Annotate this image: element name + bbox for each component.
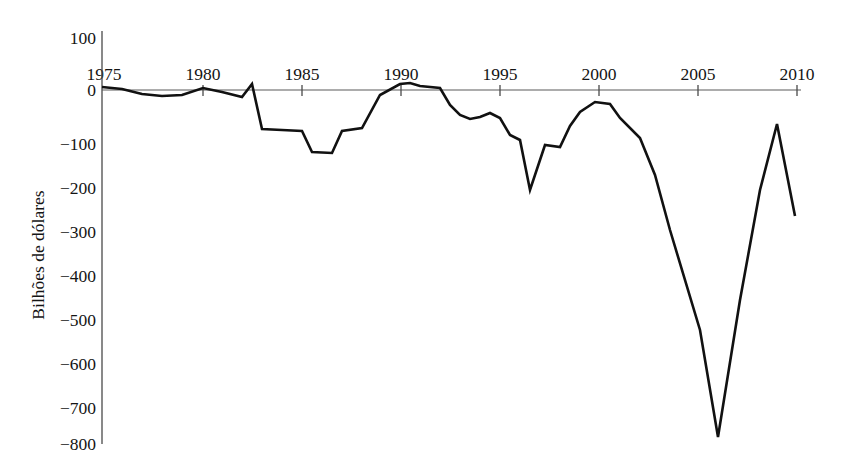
y-tick-label-minus700: −700 [60, 398, 96, 418]
x-tick-label-2000: 2000 [582, 64, 617, 84]
x-tick-label-1975: 1975 [87, 64, 122, 84]
x-tick-label-1980: 1980 [186, 64, 221, 84]
x-tick-label-1990: 1990 [384, 64, 419, 84]
x-tick-label-1985: 1985 [285, 64, 320, 84]
y-tick-label-minus400: −400 [60, 266, 96, 286]
current-account-balance-line-chart: Bilhões de dólares 100 0 −100 −200 −300 … [0, 0, 845, 468]
y-tick-label-minus200: −200 [60, 178, 96, 198]
x-tick-label-1995: 1995 [483, 64, 518, 84]
chart-figure: Bilhões de dólares 100 0 −100 −200 −300 … [0, 0, 845, 468]
y-axis-label: Bilhões de dólares [28, 190, 48, 319]
y-tick-label-minus300: −300 [60, 222, 96, 242]
y-tick-label-minus500: −500 [60, 310, 96, 330]
x-tick-label-2010: 2010 [780, 64, 815, 84]
y-tick-label-minus800: −800 [60, 434, 96, 454]
y-tick-label-minus600: −600 [60, 354, 96, 374]
x-tick-label-2005: 2005 [681, 64, 716, 84]
y-tick-label-minus100: −100 [60, 134, 96, 154]
y-tick-label-100: 100 [70, 28, 97, 48]
data-series-line [102, 83, 795, 437]
